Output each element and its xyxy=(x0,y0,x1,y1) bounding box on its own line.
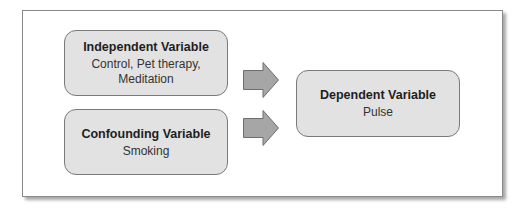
confounding-variable-title: Confounding Variable xyxy=(81,126,210,142)
dependent-variable-box: Dependent Variable Pulse xyxy=(296,70,460,137)
right-arrow-icon xyxy=(243,110,280,146)
independent-variable-title: Independent Variable xyxy=(83,39,209,55)
independent-variable-line-1: Control, Pet therapy, xyxy=(91,57,200,72)
independent-variable-box: Independent Variable Control, Pet therap… xyxy=(64,30,228,96)
right-arrow-icon xyxy=(243,62,280,98)
independent-variable-values: Control, Pet therapy, Meditation xyxy=(91,57,200,87)
confounding-variable-value: Smoking xyxy=(123,144,170,159)
independent-variable-line-2: Meditation xyxy=(91,72,200,87)
dependent-variable-value: Pulse xyxy=(363,105,393,120)
confounding-variable-box: Confounding Variable Smoking xyxy=(64,109,228,175)
dependent-variable-title: Dependent Variable xyxy=(320,87,436,103)
